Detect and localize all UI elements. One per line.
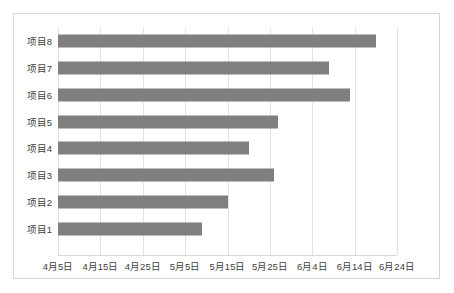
y-axis-label: 项目2 (27, 195, 52, 209)
bar[interactable] (58, 169, 274, 182)
chart-container[interactable]: 项目8项目7项目6项目5项目4项目3项目2项目1 4月5日4月15日4月25日5… (13, 13, 440, 279)
bar[interactable] (58, 88, 350, 101)
x-axis-tick-label: 4月25日 (125, 259, 161, 273)
bar-row: 项目6 (58, 82, 397, 109)
gridline (397, 28, 398, 255)
x-axis-tick-label: 5月5日 (170, 259, 201, 273)
x-axis-tick-label: 4月5日 (43, 259, 74, 273)
y-axis-label: 项目6 (27, 88, 52, 102)
x-axis-tick-label: 4月15日 (82, 259, 118, 273)
x-axis-line (58, 255, 397, 256)
y-axis-label: 项目7 (27, 61, 52, 75)
bar-row: 项目5 (58, 108, 397, 135)
bar[interactable] (58, 115, 278, 128)
y-axis-label: 项目3 (27, 168, 52, 182)
bar[interactable] (58, 222, 202, 235)
plot-area: 项目8项目7项目6项目5项目4项目3项目2项目1 (58, 28, 397, 242)
x-axis-tick-label: 5月25日 (252, 259, 288, 273)
bar[interactable] (58, 195, 228, 208)
x-axis-tick-label: 6月4日 (297, 259, 328, 273)
bar-row: 项目4 (58, 135, 397, 162)
x-axis-tick-label: 5月15日 (210, 259, 246, 273)
y-axis-label: 项目1 (27, 222, 52, 236)
bar-row: 项目7 (58, 55, 397, 82)
y-axis-label: 项目5 (27, 115, 52, 129)
plot-wrapper: 项目8项目7项目6项目5项目4项目3项目2项目1 4月5日4月15日4月25日5… (14, 14, 439, 278)
bar-row: 项目8 (58, 28, 397, 55)
bar[interactable] (58, 35, 376, 48)
bar-row: 项目1 (58, 215, 397, 242)
bar[interactable] (58, 142, 249, 155)
y-axis-label: 项目4 (27, 141, 52, 155)
bar[interactable] (58, 62, 329, 75)
bar-row: 项目2 (58, 189, 397, 216)
x-axis-tick-label: 6月14日 (337, 259, 373, 273)
y-axis-label: 项目8 (27, 34, 52, 48)
bar-row: 项目3 (58, 162, 397, 189)
x-axis-tick-label: 6月24日 (379, 259, 415, 273)
